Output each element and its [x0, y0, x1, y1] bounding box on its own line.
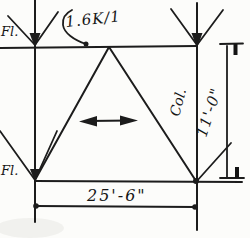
sway-arrowhead-left-icon — [79, 116, 97, 127]
corner-blob-bottom-right — [193, 178, 199, 184]
sway-arrowhead-right-icon — [120, 116, 138, 126]
brace-right-line — [109, 47, 196, 181]
top-chord-line — [0, 46, 197, 48]
load-label: 1.6K/1 — [65, 7, 122, 31]
bottom-chord-line — [35, 181, 242, 182]
load-arrow-left-stroke-b — [35, 12, 58, 45]
brace-left-line — [35, 47, 109, 180]
span-dimension-line — [35, 206, 196, 207]
paper-smudge — [0, 218, 64, 238]
floor-label-bottom: Fl. — [0, 163, 18, 178]
load-arrow-right-stroke-a — [171, 9, 197, 45]
column-label: Col. — [166, 87, 189, 118]
span-dimension-dot-left — [33, 203, 39, 209]
frame-sketch: 1.6K/1 Fl. Fl. Col. 11'-0" 25'-6" — [0, 0, 250, 238]
load-leader-dot — [84, 42, 89, 47]
height-dimension-cap-top — [220, 44, 243, 45]
load-arrow-right-stroke-b — [197, 10, 223, 45]
span-dimension-label: 25'-6" — [86, 186, 147, 205]
floor-label-top: Fl. — [0, 24, 18, 39]
corner-diagonal-bottom-right — [196, 143, 231, 182]
span-dimension-dot-right — [192, 204, 198, 210]
sketch-canvas: 1.6K/1 Fl. Fl. Col. 11'-0" 25'-6" — [0, 0, 250, 238]
